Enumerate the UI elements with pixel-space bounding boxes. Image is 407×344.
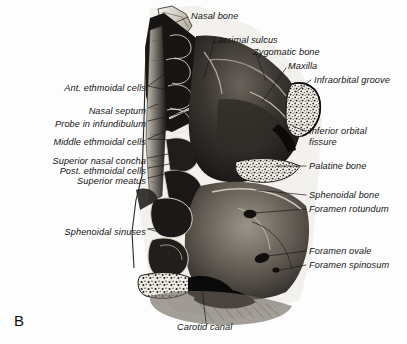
label-superior-meatus: Superior meatus <box>77 176 146 187</box>
label-foramen-ovale: Foramen ovale <box>309 246 372 257</box>
label-palatine-bone: Palatine bone <box>309 161 367 172</box>
label-foramen-spinosum: Foramen spinosum <box>309 260 389 271</box>
label-inferior-orbital-fissure-line1: Inferior orbital <box>309 126 367 137</box>
label-post-ethmoidal-cells: Post. ethmoidal cells <box>60 166 146 177</box>
foramen-spinosum <box>272 267 279 272</box>
nasal-septum-shape <box>146 26 166 204</box>
label-ant-ethmoidal-cells: Ant. ethmoidal cells <box>64 83 146 94</box>
label-nasal-septum: Nasal septum <box>89 106 146 117</box>
foramen-rotundum <box>244 210 257 218</box>
label-nasal-bone: Nasal bone <box>191 11 238 22</box>
label-middle-ethmoidal-cells: Middle ethmoidal cells <box>53 137 146 148</box>
label-zygomatic-bone: Zygomatic bone <box>253 47 320 58</box>
label-sphenoidal-sinuses: Sphenoidal sinuses <box>65 227 146 238</box>
label-infraorbital-groove: Infraorbital groove <box>314 75 390 86</box>
anatomical-figure: Ant. ethmoidal cells Nasal septum Probe … <box>0 0 407 344</box>
label-carotid-canal: Carotid canal <box>177 322 232 333</box>
label-sphenoidal-bone: Sphenoidal bone <box>309 190 379 201</box>
label-probe-in-infundibulum: Probe in infundibulum <box>55 119 146 130</box>
label-foramen-rotundum: Foramen rotundum <box>309 204 389 215</box>
label-lacrimal-sulcus: Lacrimal sulcus <box>213 35 278 46</box>
panel-letter: B <box>14 312 24 329</box>
label-superior-nasal-concha: Superior nasal concha <box>52 156 146 167</box>
label-inferior-orbital-fissure-line2: fissure <box>309 137 337 148</box>
label-maxilla: Maxilla <box>288 61 317 72</box>
